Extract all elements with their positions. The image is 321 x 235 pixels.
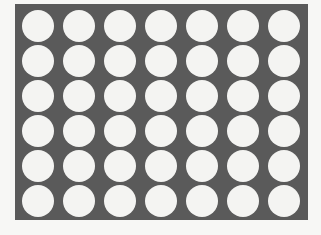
circle (104, 45, 136, 77)
circle (104, 80, 136, 112)
circle (145, 80, 177, 112)
circle (104, 185, 136, 217)
circle (227, 10, 259, 42)
circle (104, 10, 136, 42)
circle (104, 115, 136, 147)
circle (227, 150, 259, 182)
circle (268, 10, 300, 42)
circle (186, 150, 218, 182)
circle (268, 45, 300, 77)
circle (227, 80, 259, 112)
circle (22, 80, 54, 112)
circle (145, 45, 177, 77)
circle (145, 115, 177, 147)
circle (63, 45, 95, 77)
circle (63, 150, 95, 182)
circle (227, 115, 259, 147)
circle (22, 150, 54, 182)
circle (145, 150, 177, 182)
circle (145, 185, 177, 217)
circle (227, 45, 259, 77)
circle (268, 185, 300, 217)
circle (268, 150, 300, 182)
circle (268, 80, 300, 112)
circle (268, 115, 300, 147)
circle (22, 10, 54, 42)
circle (63, 80, 95, 112)
circle (186, 115, 218, 147)
circle (186, 185, 218, 217)
circle (22, 115, 54, 147)
circle (63, 115, 95, 147)
circle (104, 150, 136, 182)
circle (186, 80, 218, 112)
circle (22, 185, 54, 217)
circle (227, 185, 259, 217)
circle-grid-board (15, 4, 308, 220)
circle (186, 45, 218, 77)
circle (145, 10, 177, 42)
circle (63, 185, 95, 217)
circle (186, 10, 218, 42)
circle (63, 10, 95, 42)
circle (22, 45, 54, 77)
